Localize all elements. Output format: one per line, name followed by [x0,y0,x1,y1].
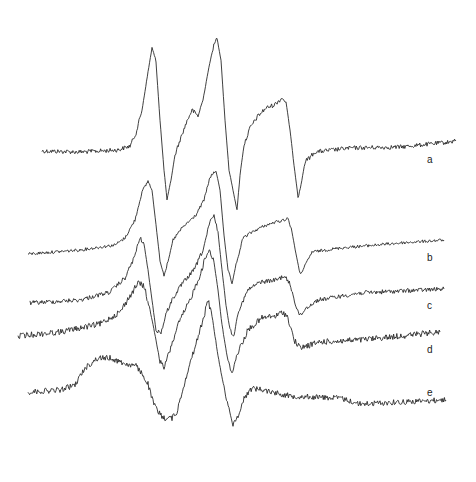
trace-label-e: e [427,387,433,398]
trace-label-c: c [427,300,432,311]
trace-label-b: b [427,252,433,263]
trace-label-d: d [427,344,433,355]
trace-a [42,38,456,209]
trace-label-a: a [427,154,433,165]
spectra-figure [0,0,476,482]
trace-b [28,171,444,284]
trace-d [18,250,440,373]
trace-c [30,215,444,336]
